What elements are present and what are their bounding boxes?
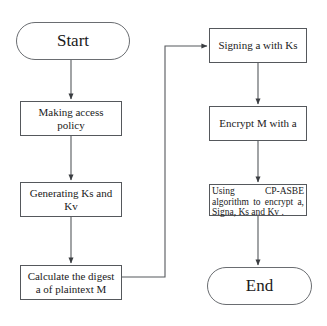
flow-node-calculate-digest-label: Calculate the digest a of plaintext M <box>21 270 121 296</box>
flow-node-calculate-digest[interactable]: Calculate the digest a of plaintext M <box>20 265 122 300</box>
flow-node-making-access-policy-label: Making access policy <box>21 106 121 132</box>
flow-node-end[interactable]: End <box>207 267 312 305</box>
flow-node-cp-asbe-label: Using CP-ASBE algorithm to encrypt a, Si… <box>210 185 306 218</box>
edge-calculate-digest-to-signing <box>122 46 207 277</box>
flow-node-making-access-policy[interactable]: Making access policy <box>20 101 122 136</box>
flow-node-encrypt-m[interactable]: Encrypt M with a <box>209 106 307 141</box>
flow-node-generating-keys[interactable]: Generating Ks and Kv <box>20 182 122 217</box>
flow-node-cp-asbe[interactable]: Using CP-ASBE algorithm to encrypt a, Si… <box>209 184 307 216</box>
flow-node-signing[interactable]: Signing a with Ks <box>209 28 307 63</box>
flow-node-encrypt-m-label: Encrypt M with a <box>216 117 299 130</box>
flow-node-signing-label: Signing a with Ks <box>215 39 300 52</box>
flow-node-end-label: End <box>243 276 276 296</box>
flow-node-start-label: Start <box>54 31 92 51</box>
flow-node-generating-keys-label: Generating Ks and Kv <box>21 187 121 213</box>
flow-node-start[interactable]: Start <box>16 22 130 60</box>
